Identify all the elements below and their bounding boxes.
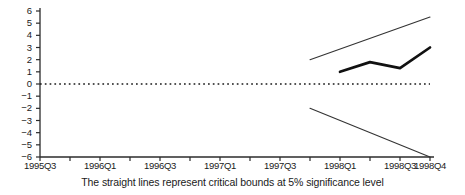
x-tick-label: 1998Q1 [324,160,356,171]
x-tick-label: 1996Q3 [144,160,176,171]
cusum-chart-figure: 6543210−1−2−3−4−5−6 1995Q31996Q11996Q319… [0,0,465,195]
y-tick-label: −1 [12,91,32,101]
y-tick-label: 6 [12,6,32,16]
y-tick-label: −4 [12,128,32,138]
axes-group [36,8,434,161]
series-upper-critical-bound [310,17,430,60]
series-lower-critical-bound [310,108,430,157]
chart-canvas [0,0,465,170]
plot-area: 6543210−1−2−3−4−5−6 1995Q31996Q11996Q319… [0,0,465,170]
y-tick-label: 0 [12,79,32,89]
x-tick-label: 1996Q1 [84,160,116,171]
y-tick-label: −5 [12,140,32,150]
x-tick-label: 1997Q3 [264,160,296,171]
x-tick-label: 1998Q3 [384,160,416,171]
y-tick-label: 3 [12,43,32,53]
chart-caption: The straight lines represent critical bo… [0,175,465,189]
y-tick-label: 2 [12,55,32,65]
y-tick-label: 4 [12,30,32,40]
y-tick-label: −3 [12,116,32,126]
data-series-group [310,17,430,157]
x-tick-label: 1995Q3 [24,160,56,171]
y-tick-label: 1 [12,67,32,77]
x-tick-label: 1998Q4 [414,160,446,171]
y-tick-label: 5 [12,18,32,28]
y-tick-label: −2 [12,103,32,113]
series-cusum-statistic [340,48,430,72]
x-tick-label: 1997Q1 [204,160,236,171]
